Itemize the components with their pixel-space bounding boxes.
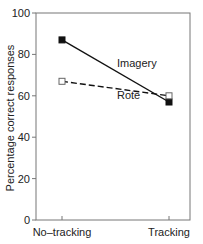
data-point-rote xyxy=(59,78,65,84)
x-tick-label: Tracking xyxy=(148,226,190,238)
data-point-imagery xyxy=(59,37,65,43)
plot-frame xyxy=(36,13,190,220)
series-line-rote xyxy=(62,81,169,95)
series-line-imagery xyxy=(62,40,169,102)
series-label-rote: Rote xyxy=(117,89,140,101)
series-layer xyxy=(59,37,172,105)
y-axis-title: Percentage correct responses xyxy=(4,44,16,191)
data-point-rote xyxy=(166,93,172,99)
line-chart: 020406080100 No–trackingTracking Percent… xyxy=(0,0,203,244)
y-tick-label: 100 xyxy=(12,7,30,19)
x-axis: No–trackingTracking xyxy=(33,216,190,238)
y-tick-label: 80 xyxy=(18,48,30,60)
y-tick-label: 0 xyxy=(24,214,30,226)
data-point-imagery xyxy=(166,99,172,105)
series-label-imagery: Imagery xyxy=(117,57,157,69)
x-tick-label: No–tracking xyxy=(33,226,92,238)
y-tick-label: 40 xyxy=(18,131,30,143)
y-tick-label: 60 xyxy=(18,90,30,102)
y-tick-label: 20 xyxy=(18,173,30,185)
